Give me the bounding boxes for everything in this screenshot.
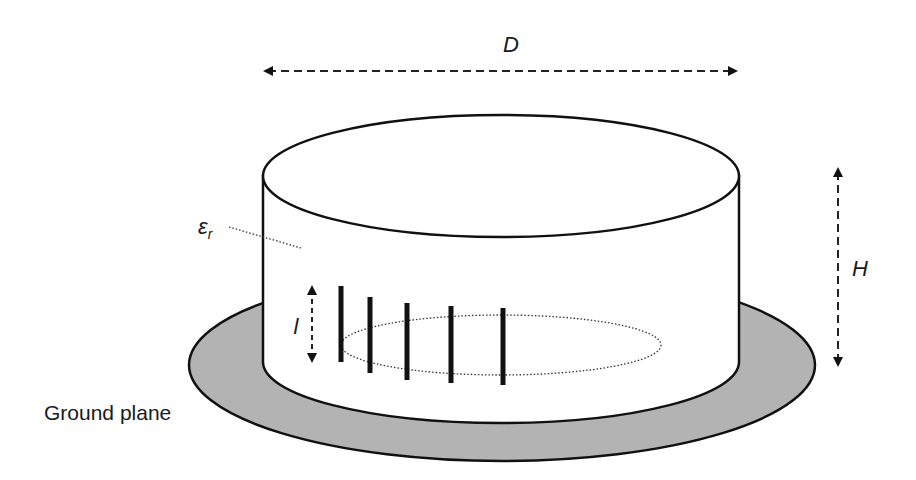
permittivity-label: εr (198, 214, 214, 242)
cylindrical-dra-diagram: D H l εr Ground plane (0, 0, 916, 480)
permittivity-symbol: ε (198, 214, 208, 239)
cylinder-top (263, 115, 739, 237)
ground-plane-label: Ground plane (44, 401, 171, 424)
height-label: H (852, 256, 868, 281)
diameter-label: D (503, 32, 519, 57)
permittivity-subscript: r (208, 226, 214, 242)
